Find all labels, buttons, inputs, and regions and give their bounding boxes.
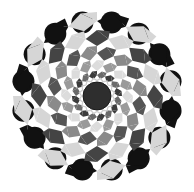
rosette-cell: [50, 18, 68, 26]
rosette-cell: [67, 54, 81, 66]
rosette-cell: [49, 128, 65, 144]
rosette-cell: [72, 113, 81, 122]
rosette-cell: [114, 113, 123, 122]
rosette-graphic: [0, 0, 194, 192]
rosette-cell: [127, 66, 139, 80]
rosette-cell: [122, 71, 127, 80]
rosette-cell: [166, 49, 174, 67]
rosette-cell: [55, 112, 67, 126]
rosette-cell: [114, 71, 123, 80]
rosette-cell: [114, 121, 123, 126]
rosette-cell: [72, 66, 81, 71]
rosette-cell: [67, 113, 72, 122]
rosette-image: [0, 0, 194, 192]
rosette-cell: [126, 165, 144, 173]
rosette-cell: [72, 71, 81, 80]
core-circle: [83, 82, 111, 110]
rosette-cell: [113, 126, 127, 138]
rosette-cell: [19, 125, 27, 143]
